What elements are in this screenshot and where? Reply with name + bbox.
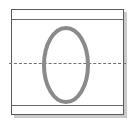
diagram-canvas: Rectangular plate outline with upper and… bbox=[0, 0, 136, 125]
oval-opening bbox=[44, 28, 88, 102]
oval-overlay bbox=[0, 0, 136, 125]
